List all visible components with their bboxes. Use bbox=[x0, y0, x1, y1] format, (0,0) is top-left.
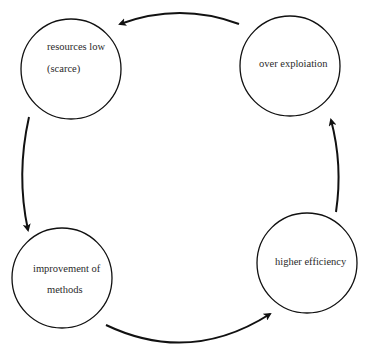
node-circle-improvement-of-methods bbox=[12, 228, 112, 328]
node-label-improvement-of-methods-line2: methods bbox=[47, 283, 83, 296]
arrow-improvement-of-methods-to-higher-efficiency bbox=[106, 314, 270, 343]
node-label-improvement-of-methods-line1: improvement of bbox=[33, 262, 100, 275]
arrow-resources-low-to-improvement-of-methods bbox=[22, 117, 29, 230]
node-label-resources-low-line2: (scarce) bbox=[47, 62, 80, 75]
arrow-higher-efficiency-to-over-exploitation bbox=[331, 120, 339, 212]
node-label-over-exploitation: over exploiation bbox=[259, 57, 328, 70]
node-label-resources-low-line1: resources low bbox=[47, 40, 105, 53]
node-label-higher-efficiency: higher efficiency bbox=[275, 255, 346, 268]
arrow-over-exploitation-to-resources-low bbox=[120, 13, 239, 24]
